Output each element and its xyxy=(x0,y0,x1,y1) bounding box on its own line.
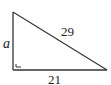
hypotenuse xyxy=(13,12,107,70)
vertical-leg-label: a xyxy=(3,37,10,51)
right-angle-marker-icon xyxy=(16,64,21,67)
horizontal-leg-label: 21 xyxy=(48,73,61,85)
hypotenuse-label: 29 xyxy=(61,25,74,38)
